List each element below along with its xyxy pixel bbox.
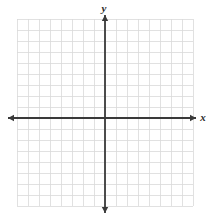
x-axis-label: x <box>199 111 206 123</box>
figure-background <box>0 0 215 223</box>
coordinate-plane-figure: x y <box>0 0 215 223</box>
coordinate-plane-canvas: x y <box>0 0 215 223</box>
y-axis-label: y <box>100 2 107 14</box>
